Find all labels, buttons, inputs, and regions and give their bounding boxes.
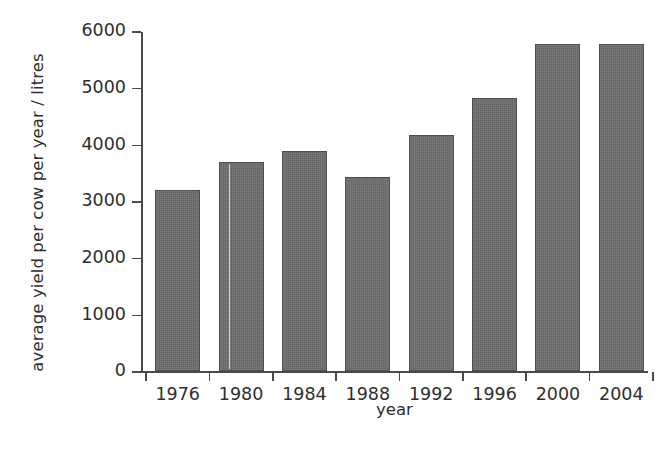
x-axis-tick — [145, 372, 147, 381]
y-axis-title: average yield per cow per year / litres — [28, 43, 47, 383]
y-axis-tick-label: 1000 — [81, 304, 126, 324]
y-axis-tick: 6000 — [132, 31, 141, 33]
x-axis-tick — [652, 372, 654, 381]
y-axis-tick: 1000 — [132, 315, 141, 317]
y-axis-tick-label: 6000 — [81, 20, 126, 40]
bar — [409, 135, 454, 371]
x-axis-title: year — [141, 400, 648, 419]
y-axis-tick: 2000 — [132, 258, 141, 260]
y-axis-line — [141, 32, 143, 372]
y-axis-tick-label: 2000 — [81, 247, 126, 267]
bar — [345, 177, 390, 371]
bar — [535, 44, 580, 371]
bar — [155, 190, 200, 371]
bar — [599, 44, 644, 371]
x-axis-tick — [209, 372, 211, 381]
y-axis-tick-label: 5000 — [81, 77, 126, 97]
x-axis-tick — [335, 372, 337, 381]
y-axis-tick: 3000 — [132, 201, 141, 203]
x-axis-tick — [399, 372, 401, 381]
bar — [282, 151, 327, 371]
y-axis-tick-label: 3000 — [81, 190, 126, 210]
y-axis-tick: 4000 — [132, 145, 141, 147]
y-axis-tick-label: 0 — [115, 360, 126, 380]
y-axis-tick-label: 4000 — [81, 134, 126, 154]
y-axis-tick: 5000 — [132, 88, 141, 90]
x-axis-tick — [272, 372, 274, 381]
scan-artifact-line — [229, 164, 230, 369]
x-axis-tick — [462, 372, 464, 381]
bar — [219, 162, 264, 371]
x-axis-line — [141, 371, 648, 373]
y-axis-tick: 0 — [132, 371, 141, 373]
plot-area: 0100020003000400050006000 19761980198419… — [141, 32, 648, 372]
x-axis-tick — [525, 372, 527, 381]
bar — [472, 98, 517, 371]
bar-chart-figure: average yield per cow per year / litres … — [0, 0, 672, 463]
x-axis-tick — [589, 372, 591, 381]
